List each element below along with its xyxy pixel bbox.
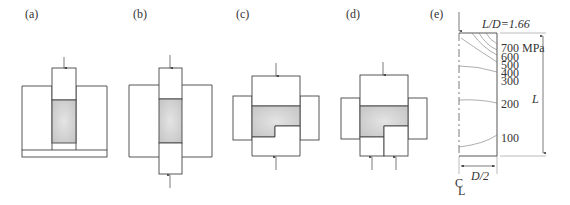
powder-b <box>159 99 182 143</box>
panel-c: (c) <box>233 7 319 170</box>
upper-punch-a <box>52 68 76 100</box>
height-label: L <box>531 92 539 106</box>
panel-a: (a) <box>22 7 107 157</box>
compaction-diagram: (a) (b) (c) (d) <box>0 0 570 205</box>
contour-500 <box>472 33 497 55</box>
panel-d-label: (d) <box>346 7 360 21</box>
contour-600 <box>479 33 497 50</box>
lower-punch-left-d <box>360 137 384 156</box>
upper-punch-d <box>360 75 408 106</box>
panel-d: (d) <box>341 7 427 170</box>
contour-100 <box>459 135 497 147</box>
centerline-symbol-l: L <box>458 184 465 198</box>
upper-punch-c <box>252 76 300 106</box>
panel-b: (b) <box>129 7 212 188</box>
panel-b-label: (b) <box>133 7 147 21</box>
lower-punch-b <box>159 143 182 174</box>
contour-label-200: 200 <box>501 97 519 111</box>
upper-punch-b <box>159 68 182 99</box>
die-right-c <box>300 96 319 140</box>
panel-c-label: (c) <box>236 7 249 21</box>
base-plate-a <box>22 150 107 157</box>
die-right-d <box>408 98 427 139</box>
powder-a <box>52 100 76 143</box>
contour-label-100: 100 <box>501 131 519 145</box>
lower-punch-right-d <box>384 126 408 156</box>
width-label: D/2 <box>470 169 489 183</box>
panel-e: (e) L/D=1.66 700 MPa 600 500 400 300 200… <box>430 7 546 198</box>
contour-300 <box>459 66 497 72</box>
contour-label-300: 300 <box>501 74 519 88</box>
panel-e-label: (e) <box>430 7 443 21</box>
die-left-c <box>233 96 252 140</box>
contour-700 <box>486 33 497 44</box>
ratio-label: L/D=1.66 <box>481 17 530 31</box>
contour-200 <box>459 100 497 103</box>
die-left-d <box>341 98 360 139</box>
panel-a-label: (a) <box>25 7 38 21</box>
